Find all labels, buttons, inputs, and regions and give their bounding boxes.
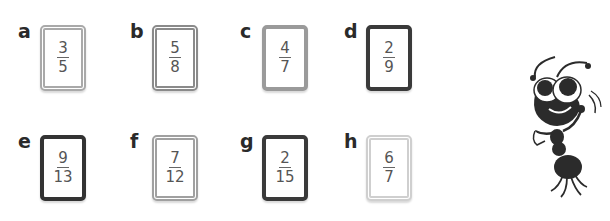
fraction: 7 12 [165,151,184,185]
card-item-f: f 7 12 [130,132,240,221]
fraction-card: 9 13 [40,135,86,201]
fraction: 9 13 [53,151,72,185]
card-label: a [18,22,31,41]
fraction-card: 7 12 [152,135,198,201]
card-label: h [344,132,358,151]
denominator: 7 [384,168,394,185]
fraction: 2 15 [275,151,294,185]
card-item-d: d 2 9 [344,22,454,112]
denominator: 9 [384,58,394,75]
card-item-c: c 4 7 [240,22,350,112]
fraction-card: 3 5 [40,25,86,91]
numerator: 5 [169,41,181,58]
numerator: 2 [383,41,395,58]
card-item-b: b 5 8 [130,22,240,112]
fraction: 6 7 [383,151,395,185]
numerator: 2 [279,151,291,168]
fraction-card: 6 7 [366,135,412,201]
numerator: 9 [57,151,69,168]
fraction: 2 9 [383,41,395,75]
numerator: 3 [57,41,69,58]
fraction-card: 4 7 [262,25,308,91]
denominator: 5 [58,58,68,75]
card-item-a: a 3 5 [18,22,128,112]
numerator: 4 [279,41,291,58]
card-label: f [130,132,138,151]
fraction: 3 5 [57,41,69,75]
denominator: 7 [280,58,290,75]
card-item-e: e 9 13 [18,132,128,221]
card-label: e [18,132,31,151]
numerator: 7 [169,151,181,168]
denominator: 15 [275,168,294,185]
card-label: c [240,22,251,41]
denominator: 12 [165,168,184,185]
fraction-card: 2 9 [366,25,412,91]
fraction-card: 2 15 [262,135,308,201]
denominator: 8 [170,58,180,75]
fraction: 4 7 [279,41,291,75]
card-item-g: g 2 15 [240,132,350,221]
card-label: d [344,22,358,41]
fraction: 5 8 [169,41,181,75]
thinking-ant-illustration [505,45,605,205]
card-label: g [240,132,254,151]
card-label: b [130,22,144,41]
denominator: 13 [53,168,72,185]
numerator: 6 [383,151,395,168]
card-item-h: h 6 7 [344,132,454,221]
fraction-card: 5 8 [152,25,198,91]
